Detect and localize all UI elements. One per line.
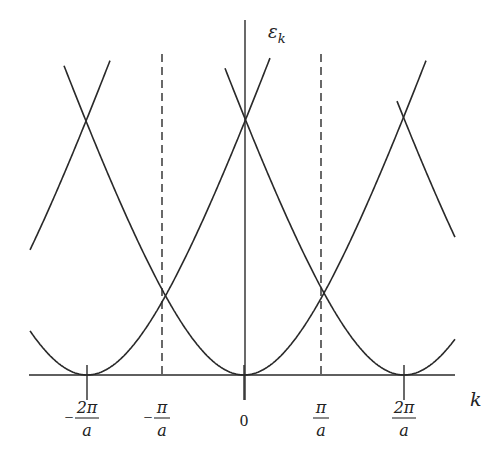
svg-text:a: a <box>316 421 326 440</box>
tick-label-zero: 0 <box>240 411 249 430</box>
svg-text:2π: 2π <box>76 398 98 417</box>
k-axis-label: k <box>470 388 482 410</box>
tick-label-pi-a: πa <box>313 398 329 440</box>
band-center-2pi <box>225 68 455 375</box>
svg-text:π: π <box>315 398 327 417</box>
band-center-minus-4pi <box>30 61 110 250</box>
tick-label-2pi-a: 2πa <box>392 398 416 440</box>
svg-text:a: a <box>82 421 92 440</box>
svg-text:−: − <box>64 409 73 426</box>
svg-text:−: − <box>143 409 152 426</box>
energy-curves <box>30 58 455 375</box>
band-center-minus-2pi <box>30 58 270 375</box>
energy-axis-label: εk <box>268 21 286 46</box>
svg-text:2π: 2π <box>393 398 415 417</box>
tick-label-minus-2pi-a: 2πa− <box>64 398 99 440</box>
svg-text:a: a <box>157 421 167 440</box>
tick-label-minus-pi-a: πa− <box>143 398 170 440</box>
svg-text:a: a <box>399 421 409 440</box>
band-diagram: 2πa−πa−0πa2πa εk k <box>0 0 504 465</box>
axes <box>29 20 455 400</box>
svg-text:π: π <box>156 398 168 417</box>
tick-labels: 2πa−πa−0πa2πa <box>64 398 416 440</box>
zone-boundaries <box>162 54 321 375</box>
band-center-4pi <box>397 101 455 237</box>
